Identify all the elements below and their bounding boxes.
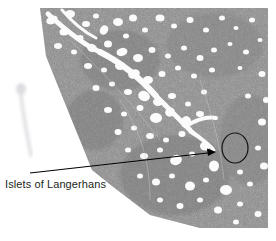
micrograph-svg [0, 0, 276, 241]
micrograph-stage [0, 0, 276, 241]
figure-container: Islets of Langerhans [0, 0, 276, 241]
annotation-label: Islets of Langerhans [5, 178, 106, 191]
